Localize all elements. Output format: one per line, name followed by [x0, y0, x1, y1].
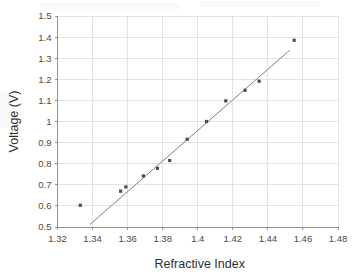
- y-tick-label: 0.9: [38, 137, 51, 148]
- y-tick-label: 1.1: [38, 95, 51, 106]
- x-tick-label: 1.32: [48, 233, 67, 244]
- x-tick-label: 1.38: [153, 233, 172, 244]
- y-tick-label: 1: [46, 116, 51, 127]
- x-tick-label: 1.4: [191, 233, 204, 244]
- y-axis-title: Voltage (V): [7, 91, 21, 153]
- x-tick-label: 1.36: [118, 233, 137, 244]
- data-point: [293, 39, 296, 42]
- data-point: [258, 80, 261, 83]
- y-tick-label: 1.5: [38, 10, 51, 21]
- data-point: [168, 159, 171, 162]
- chart-container: 1.321.341.361.381.41.421.441.461.48 0.50…: [0, 0, 358, 277]
- data-point: [119, 190, 122, 193]
- gridlines: [58, 16, 339, 227]
- y-tick-label: 0.6: [38, 200, 51, 211]
- data-point: [243, 89, 246, 92]
- data-point: [156, 167, 159, 170]
- tick-marks: [55, 16, 339, 230]
- y-tick-label: 0.7: [38, 179, 51, 190]
- data-point: [224, 99, 227, 102]
- data-point: [79, 204, 82, 207]
- trend-line: [90, 50, 290, 224]
- x-tick-labels: 1.321.341.361.381.41.421.441.461.48: [48, 233, 347, 244]
- data-point: [124, 185, 127, 188]
- y-tick-label: 0.5: [38, 221, 51, 232]
- x-tick-label: 1.46: [294, 233, 313, 244]
- x-tick-label: 1.48: [329, 233, 348, 244]
- x-tick-label: 1.34: [83, 233, 102, 244]
- x-axis-title: Refractive Index: [155, 257, 246, 271]
- y-tick-label: 1.2: [38, 74, 51, 85]
- data-point: [142, 174, 145, 177]
- y-tick-label: 1.4: [38, 32, 51, 43]
- y-tick-labels: 0.50.60.70.80.911.11.21.31.41.5: [38, 10, 51, 232]
- y-tick-label: 1.3: [38, 53, 51, 64]
- x-tick-label: 1.42: [224, 233, 243, 244]
- data-point: [186, 138, 189, 141]
- y-tick-label: 0.8: [38, 158, 51, 169]
- x-tick-label: 1.44: [259, 233, 278, 244]
- data-points: [79, 39, 296, 207]
- data-point: [205, 120, 208, 123]
- scatter-plot: 1.321.341.361.381.41.421.441.461.48 0.50…: [0, 0, 358, 277]
